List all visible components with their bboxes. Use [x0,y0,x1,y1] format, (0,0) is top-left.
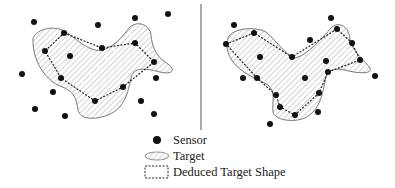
sensor-dot [273,92,279,98]
sensor-dot [231,22,237,28]
sensor-dot [307,37,313,43]
sensor-dot [257,54,263,60]
sensor-dot [58,75,64,81]
sensor-dot [153,75,159,81]
sensor-dot [323,58,329,64]
sensor-dot [99,45,105,51]
sensor-dot [132,15,138,21]
sensor-dot [254,75,260,81]
legend-sensor-label: Sensor [173,133,208,147]
sensor-dot [328,15,334,21]
sensor-dot [289,54,295,60]
sensor-dot [132,40,138,46]
target-region-left [33,24,172,119]
sensor-dot [151,111,157,117]
sensor-dot [349,40,355,46]
target-region-right [227,25,370,121]
sensor-dot [277,104,283,110]
sensor-dot [315,109,321,115]
sensor-dot [31,19,37,25]
left-panel [19,11,172,119]
legend-sensor-icon [153,136,161,144]
sensor-dot [120,84,126,90]
sensor-dot [138,98,144,104]
legend-target-label: Target [173,149,205,163]
sensor-dot [19,71,25,77]
sensor-dot [292,112,298,118]
sensor-dot [42,48,48,54]
sensor-dot [316,90,322,96]
sensor-dot [372,73,378,79]
sensor-dot [92,98,98,104]
sensor-dot [325,69,331,75]
legend-deduced-label: Deduced Target Shape [173,165,286,179]
sensor-dot [240,75,246,81]
sensor-dot [95,22,101,28]
sensor-dot [267,121,273,127]
sensor-dot [165,11,171,17]
legend-deduced-icon [145,166,168,178]
sensor-dot [151,59,157,65]
sensor-dot [50,89,56,95]
sensor-dot [61,30,67,36]
sensor-dot [32,106,38,112]
sensor-dot [62,113,68,119]
sensor-dot [67,53,73,59]
sensor-dot [357,57,363,63]
legend: Sensor Target Deduced Target Shape [145,133,286,179]
legend-target-icon [145,152,169,160]
sensor-dot [223,41,229,47]
sensor-dot [302,75,308,81]
sensor-dot [334,26,340,32]
right-panel [223,15,378,127]
sensor-dot [251,30,257,36]
sensor-network-diagram: Sensor Target Deduced Target Shape [0,0,395,188]
